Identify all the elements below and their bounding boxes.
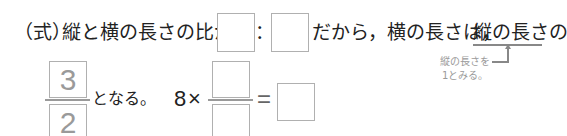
multiplier-value: 8 [174, 86, 186, 112]
equation-numerator-box[interactable] [212, 61, 250, 98]
fraction-bar [45, 99, 90, 101]
equation-denominator-box[interactable] [212, 104, 250, 136]
fraction-numerator-box[interactable]: 3 [49, 61, 87, 98]
equals-sign: = [257, 86, 271, 112]
conclusion-text: となる。 [92, 88, 156, 110]
annotation-pointer-line [507, 48, 509, 62]
underlined-phrase: 縦の長さの [473, 20, 567, 44]
fraction-denominator-box[interactable]: 2 [49, 104, 87, 136]
equation-answer-box[interactable] [277, 83, 315, 121]
annotation-line-2: 1とみる。 [442, 69, 488, 82]
equation-fraction-bar [208, 99, 253, 101]
annotation-line-1: 縦の長さを [440, 55, 490, 68]
times-sign: × [188, 86, 201, 112]
ratio-answer-box-1[interactable] [217, 13, 255, 52]
ratio-answer-box-2[interactable] [271, 13, 309, 52]
ratio-prompt-text: 縦と横の長さの比が [62, 20, 233, 44]
annotation-leader-line [492, 61, 509, 63]
